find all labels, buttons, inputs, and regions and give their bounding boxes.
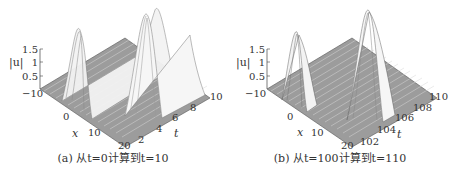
z-tick: 0.5 (22, 71, 38, 82)
t-tick: 108 (413, 102, 432, 113)
t-tick: 104 (377, 124, 396, 135)
panel-b: 1.5 1 0.5 |u| −10 0 10 20 x 102 104 106 … (227, 0, 453, 177)
x-tick: 10 (88, 127, 101, 138)
t-tick: 10 (210, 91, 223, 102)
panel-a: 1.5 1 0.5 |u| −10 0 10 20 x 2 4 6 8 10 t… (0, 0, 226, 177)
z-tick: 0.5 (249, 71, 265, 82)
surface-plot-a: 1.5 1 0.5 |u| −10 0 10 20 x 2 4 6 8 10 t (0, 0, 226, 150)
x-tick: 0 (287, 111, 293, 122)
t-tick: 110 (429, 91, 448, 102)
z-tick: 1 (32, 57, 38, 68)
t-axis-label: t (397, 128, 402, 141)
x-tick: −10 (245, 88, 266, 99)
z-tick: 1 (259, 57, 265, 68)
caption-a: (a) 从t=0计算到t=10 (0, 149, 226, 165)
t-tick: 2 (138, 134, 144, 145)
x-tick: 0 (63, 111, 69, 122)
t-tick: 6 (172, 112, 178, 123)
x-axis-label: x (297, 126, 304, 139)
t-axis-label: t (174, 127, 179, 140)
t-tick: 8 (190, 102, 196, 113)
caption-b: (b) 从t=100计算到t=110 (227, 149, 453, 165)
x-axis-label: x (72, 127, 79, 140)
z-tick: 1.5 (22, 44, 38, 55)
t-tick: 4 (156, 123, 162, 134)
t-tick: 106 (395, 112, 414, 123)
x-tick: −10 (22, 88, 43, 99)
t-tick: 102 (360, 136, 379, 147)
surface-plot-b: 1.5 1 0.5 |u| −10 0 10 20 x 102 104 106 … (227, 0, 453, 150)
z-axis-label: |u| (9, 56, 24, 70)
z-tick: 1.5 (249, 44, 265, 55)
z-axis-label: |u| (236, 56, 251, 70)
x-tick: 10 (311, 127, 324, 138)
